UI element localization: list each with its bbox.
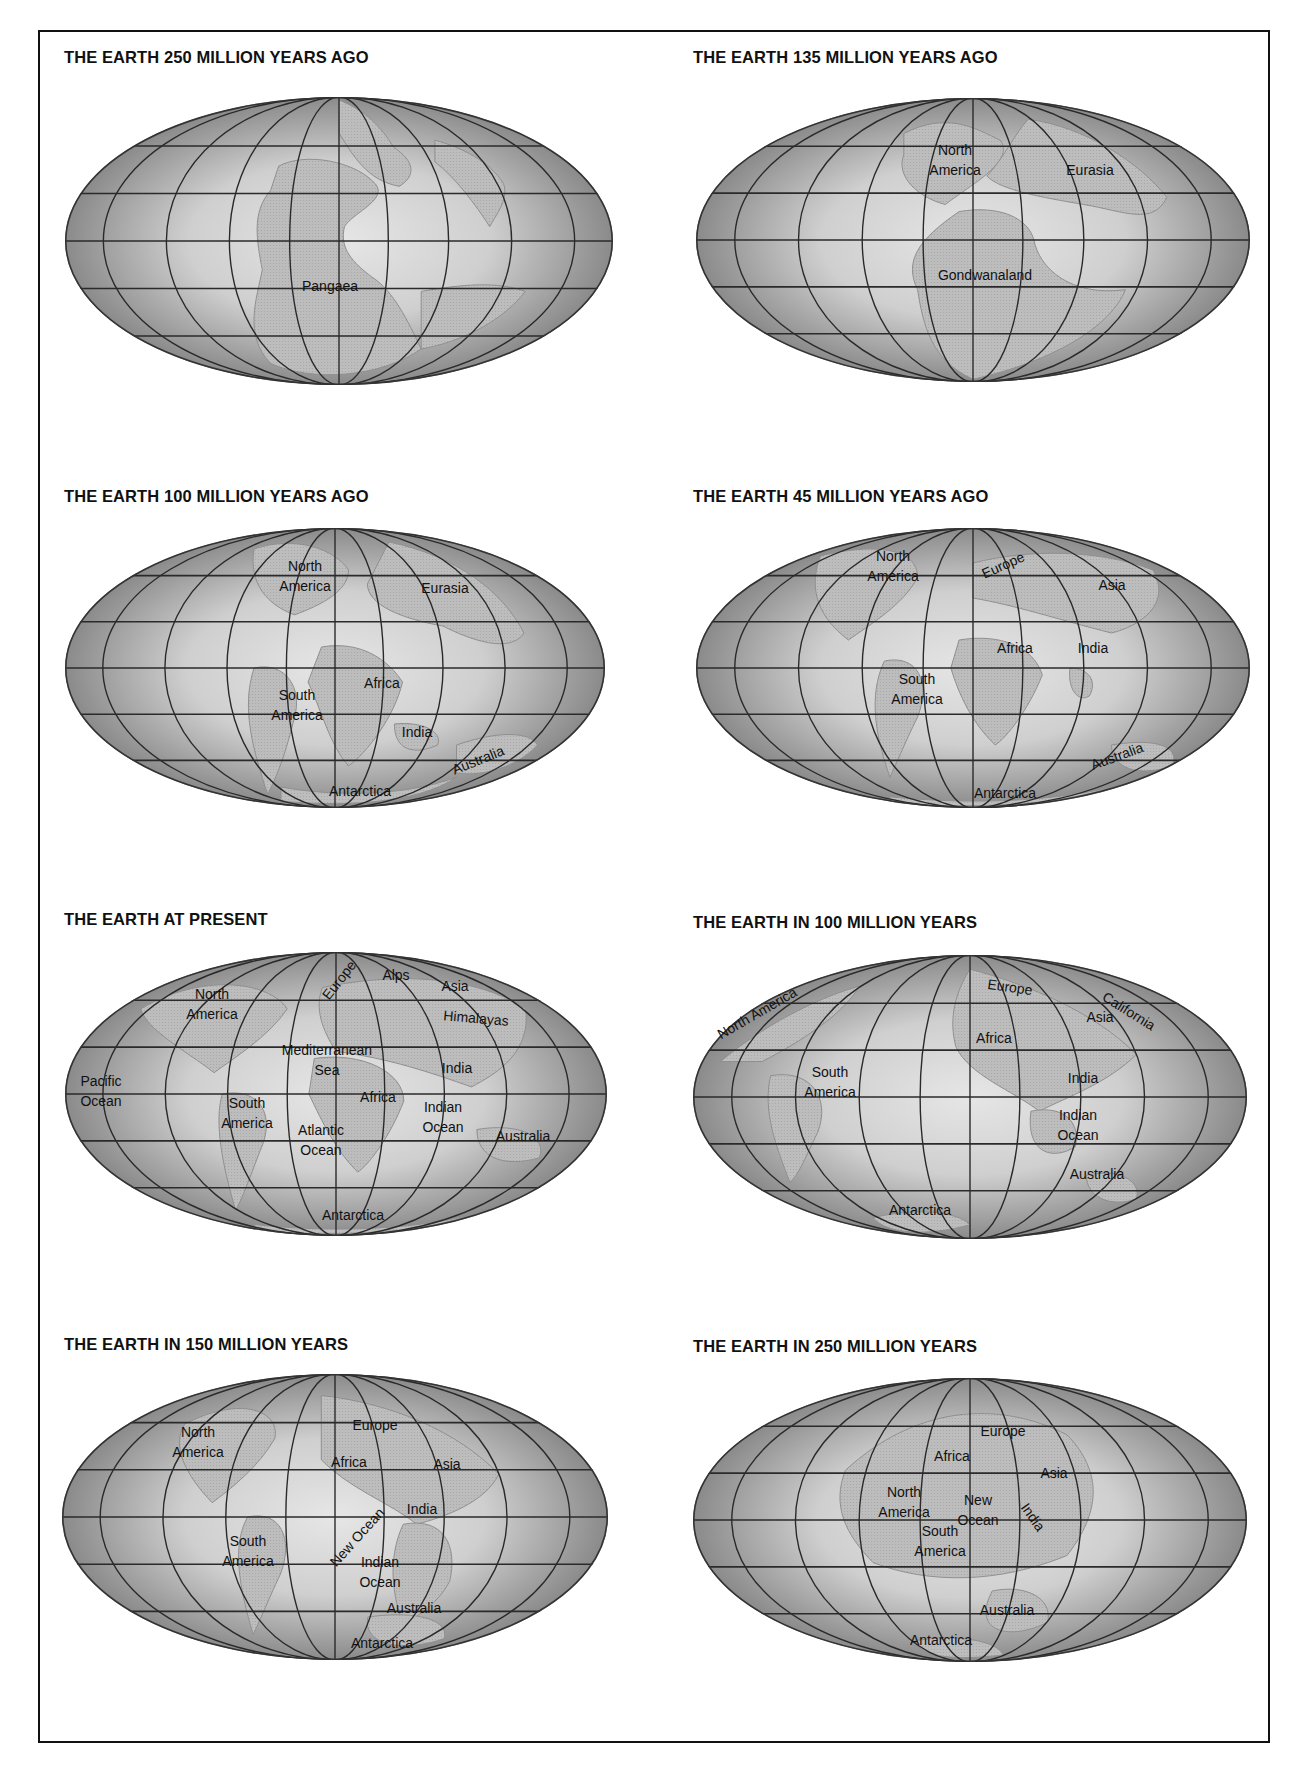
map-label: Antarctica	[889, 1200, 951, 1220]
map-label: Australia	[387, 1598, 441, 1618]
map-label: South America	[271, 685, 322, 725]
map-label: Mediterranean Sea	[282, 1040, 372, 1080]
map-label: India	[442, 1058, 472, 1078]
map-label: Asia	[1040, 1463, 1067, 1483]
map-label: Eurasia	[421, 578, 468, 598]
map-label: Asia	[433, 1454, 460, 1474]
map-label: North America	[867, 546, 918, 586]
map-label: India	[1068, 1068, 1098, 1088]
map-label: North America	[172, 1422, 223, 1462]
map-label: Indian Ocean	[422, 1097, 463, 1137]
map-label: Asia	[1098, 575, 1125, 595]
map-label: Africa	[976, 1028, 1012, 1048]
map-label: Australia	[980, 1600, 1034, 1620]
panel-title: THE EARTH 100 MILLION YEARS AGO	[64, 487, 369, 506]
panel-title: THE EARTH IN 100 MILLION YEARS	[693, 913, 977, 932]
globe-map	[65, 97, 613, 385]
map-label: North America	[279, 556, 330, 596]
map-label: North America	[878, 1482, 929, 1522]
panel-title: THE EARTH 45 MILLION YEARS AGO	[693, 487, 988, 506]
map-label: Europe	[980, 1421, 1025, 1441]
map-label: Antarctica	[910, 1630, 972, 1650]
map-label: Asia	[441, 976, 468, 996]
map-label: Asia	[1086, 1007, 1113, 1027]
globe-map	[696, 528, 1250, 808]
globe-map	[65, 528, 605, 808]
map-label: South America	[914, 1521, 965, 1561]
map-label: India	[407, 1499, 437, 1519]
panel-title: THE EARTH IN 250 MILLION YEARS	[693, 1337, 977, 1356]
globe-map	[62, 1374, 608, 1660]
panel-title: THE EARTH 135 MILLION YEARS AGO	[693, 48, 998, 67]
map-label: Atlantic Ocean	[298, 1120, 344, 1160]
map-label: Europe	[352, 1415, 397, 1435]
map-label: Alps	[382, 965, 409, 985]
map-label: Africa	[360, 1087, 396, 1107]
panel-title: THE EARTH 250 MILLION YEARS AGO	[64, 48, 369, 67]
map-label: Antarctica	[329, 781, 391, 801]
map-label: Pangaea	[302, 276, 358, 296]
map-label: Africa	[331, 1452, 367, 1472]
map-label: Australia	[496, 1126, 550, 1146]
map-label: Africa	[997, 638, 1033, 658]
map-label: Pacific Ocean	[80, 1071, 121, 1111]
map-label: Indian Ocean	[359, 1552, 400, 1592]
map-label: North America	[929, 140, 980, 180]
map-label: Antarctica	[322, 1205, 384, 1225]
map-label: Antarctica	[351, 1633, 413, 1653]
map-label: South America	[221, 1093, 272, 1133]
map-label: Africa	[934, 1446, 970, 1466]
map-label: South America	[222, 1531, 273, 1571]
panel-title: THE EARTH IN 150 MILLION YEARS	[64, 1335, 348, 1354]
map-label: South America	[804, 1062, 855, 1102]
map-label: Eurasia	[1066, 160, 1113, 180]
map-label: India	[402, 722, 432, 742]
map-label: Africa	[364, 673, 400, 693]
panel-title: THE EARTH AT PRESENT	[64, 910, 268, 929]
map-label: North America	[186, 984, 237, 1024]
map-label: Australia	[1070, 1164, 1124, 1184]
map-label: Gondwanaland	[938, 265, 1032, 285]
map-label: South America	[891, 669, 942, 709]
map-label: Antarctica	[974, 783, 1036, 803]
map-label: Indian Ocean	[1057, 1105, 1098, 1145]
map-label: India	[1078, 638, 1108, 658]
